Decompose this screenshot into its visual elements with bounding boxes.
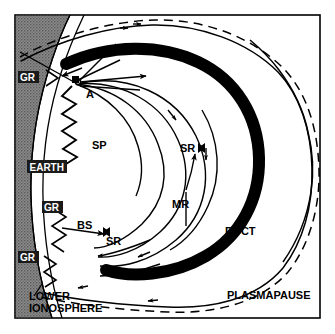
gr-bottom-label-text: GR	[20, 252, 36, 263]
earth-label: EARTH	[27, 160, 67, 173]
bs-label: BS	[77, 219, 92, 231]
figure-root: GR EARTH GR GR A SP BS SR SR MR DUCT	[0, 0, 335, 334]
point-a-label: A	[86, 88, 94, 100]
plasmapause-dir-arrow-bottom	[148, 300, 158, 301]
gr-top-label: GR	[18, 71, 39, 83]
gr-top-label-text: GR	[20, 72, 36, 83]
lower-ionosphere-label-line2: IONOSPHERE	[29, 302, 102, 314]
earth-label-text: EARTH	[30, 162, 64, 173]
lower-ionosphere-label-line1: LOWER	[29, 290, 70, 302]
point-a-block	[72, 76, 79, 83]
sr-upper-label: SR	[180, 142, 195, 154]
gr-bottom-label: GR	[18, 251, 39, 263]
sr-lower-label: SR	[106, 235, 121, 247]
duct-label: DUCT	[225, 225, 256, 237]
magnetosphere-diagram: GR EARTH GR GR A SP BS SR SR MR DUCT	[0, 0, 335, 334]
gr-mid-label-text: GR	[44, 202, 60, 213]
mr-label: MR	[172, 198, 189, 210]
plasmapause-label: PLASMAPAUSE	[227, 289, 311, 301]
sp-label: SP	[92, 139, 107, 151]
gr-mid-label: GR	[42, 201, 63, 213]
